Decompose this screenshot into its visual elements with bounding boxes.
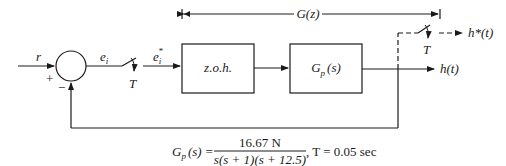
zoh-label: z.o.h. [203,60,232,75]
error-label: ei [100,49,109,66]
sampler-1-period: T [129,76,137,91]
plant-label: Gp(s) [311,60,341,78]
plant-equation: Gp(s) = 16.67 N s(s + 1)(s + 12.5) , T =… [172,135,377,166]
minus-sign: − [58,80,65,95]
equation-denominator: s(s + 1)(s + 12.5) [214,152,306,166]
gz-label: G(z) [296,6,319,21]
output-label: h(t) [440,61,459,76]
plus-sign: + [46,71,53,86]
plant-block [290,44,362,93]
equation-numerator: 16.67 N [239,135,282,150]
equation-suffix: , T = 0.05 sec [306,144,377,159]
block-diagram: r + − ei T ei* z.o.h. Gp(s) h(t) G(z) [0,0,506,166]
input-label: r [36,49,42,64]
sampler-2-period: T [423,42,431,57]
summing-junction [56,51,86,81]
sampled-error-label: ei* [153,46,163,66]
sampler-switch-1 [122,58,136,71]
equation-lhs: Gp(s) = [172,144,214,161]
feedback-path [71,69,398,128]
sampled-output-label: h*(t) [468,25,493,40]
